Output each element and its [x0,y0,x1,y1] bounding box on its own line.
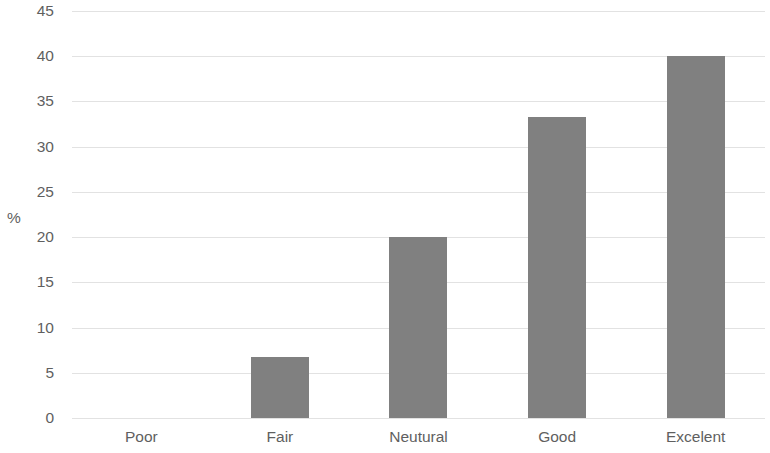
y-axis-tick-label: 5 [8,365,54,381]
y-axis-tick-label: 40 [8,48,54,64]
y-axis-tick-label: 20 [8,229,54,245]
gridline [72,418,765,419]
x-axis-tick-label: Excelent [666,429,725,445]
y-axis-tick-label: 35 [8,94,54,110]
x-axis-tick-label: Fair [267,429,294,445]
gridline [72,282,765,283]
bar-slot [626,11,765,418]
bar-chart: % 051015202530354045 PoorFairNeuturalGoo… [0,0,770,453]
y-axis-tick-label: 0 [8,410,54,426]
x-axis-tick-label: Poor [125,429,158,445]
gridline [72,56,765,57]
gridline [72,237,765,238]
y-axis-tick-label: 45 [8,3,54,19]
plot-area [72,11,765,418]
x-axis-tick-label: Neutural [389,429,448,445]
x-axis-tick-label: Good [538,429,576,445]
y-axis-tick-label: 10 [8,320,54,336]
y-axis-title: % [7,210,21,226]
gridline [72,328,765,329]
bar [251,357,309,418]
gridline [72,147,765,148]
gridline [72,11,765,12]
y-axis-tick-label: 25 [8,184,54,200]
bar-slot [349,11,488,418]
gridline [72,192,765,193]
y-axis-tick-label: 15 [8,275,54,291]
bar-slot [211,11,350,418]
bar-slot [488,11,627,418]
bar-slot [72,11,211,418]
gridline [72,101,765,102]
y-axis-tick-label: 30 [8,139,54,155]
gridline [72,373,765,374]
